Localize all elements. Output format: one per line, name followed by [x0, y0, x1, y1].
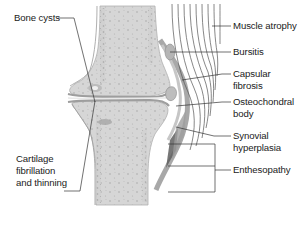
label-cartilage-fibrillation: Cartilage fibrillation and thinning: [16, 153, 67, 189]
label-bone-cysts: Bone cysts: [14, 12, 60, 24]
label-muscle-atrophy: Muscle atrophy: [233, 20, 297, 32]
upper-bone: [70, 6, 170, 96]
label-capsular-fibrosis: Capsular fibrosis: [233, 68, 271, 92]
label-enthesopathy: Enthesopathy: [233, 164, 290, 176]
joint-diagram: Bone cysts Cartilage fibrillation and th…: [0, 0, 299, 225]
label-bursitis: Bursitis: [233, 46, 264, 58]
label-osteochondral-body: Osteochondral body: [233, 96, 294, 120]
label-synovial-hyperplasia: Synovial hyperplasia: [233, 130, 281, 154]
